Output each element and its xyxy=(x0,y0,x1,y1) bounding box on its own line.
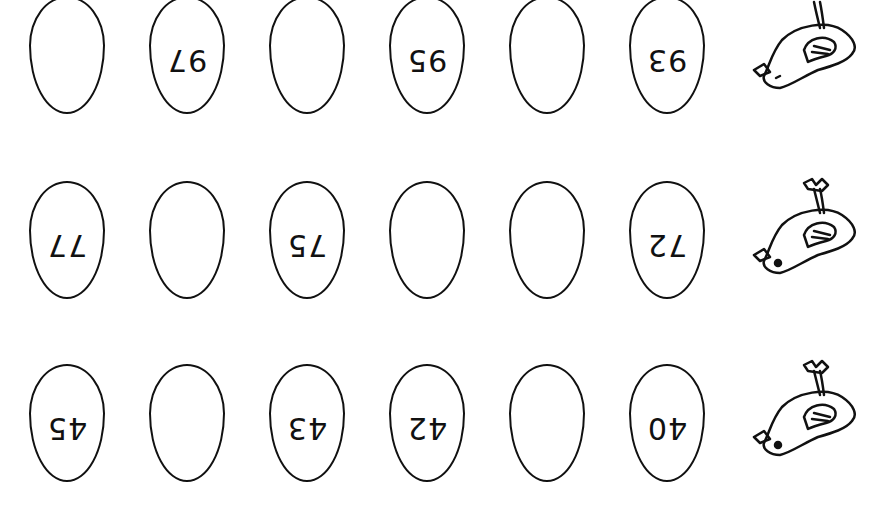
egg-blank[interactable] xyxy=(29,0,105,114)
chick-icon xyxy=(742,0,862,110)
egg-number-43: 43 xyxy=(269,364,345,482)
egg-number: 75 xyxy=(287,230,327,260)
egg-number: 77 xyxy=(47,230,87,260)
chick-icon xyxy=(742,175,862,295)
egg-number: 93 xyxy=(647,45,687,75)
egg-blank[interactable] xyxy=(149,364,225,482)
egg-number-95: 95 xyxy=(389,0,465,114)
egg-number-45: 45 xyxy=(29,364,105,482)
egg-number: 45 xyxy=(47,413,87,443)
egg-number-75: 75 xyxy=(269,181,345,299)
egg-number-93: 93 xyxy=(629,0,705,114)
chick-icon xyxy=(742,357,862,477)
egg-number: 72 xyxy=(647,230,687,260)
egg-number: 40 xyxy=(647,413,687,443)
egg-number-42: 42 xyxy=(389,364,465,482)
egg-blank[interactable] xyxy=(509,181,585,299)
egg-blank[interactable] xyxy=(269,0,345,114)
egg-number: 97 xyxy=(167,45,207,75)
egg-number-97: 97 xyxy=(149,0,225,114)
egg-blank[interactable] xyxy=(389,181,465,299)
egg-number: 43 xyxy=(287,413,327,443)
egg-blank[interactable] xyxy=(509,0,585,114)
egg-blank[interactable] xyxy=(509,364,585,482)
egg-number: 42 xyxy=(407,413,447,443)
egg-number: 95 xyxy=(407,45,447,75)
egg-blank[interactable] xyxy=(149,181,225,299)
egg-number-72: 72 xyxy=(629,181,705,299)
egg-number-40: 40 xyxy=(629,364,705,482)
egg-number-77: 77 xyxy=(29,181,105,299)
